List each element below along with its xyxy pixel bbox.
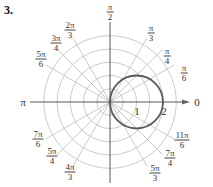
angle-label-7pi-4: 7π4 — [164, 149, 175, 168]
angle-label-5pi-3: 5π3 — [149, 164, 160, 183]
radial-label-2: 2 — [161, 107, 167, 116]
angle-label-2pi-3: 2π3 — [64, 21, 75, 40]
angle-label-4pi-3: 4π3 — [64, 163, 75, 182]
polar-plot — [0, 0, 213, 187]
angle-label-5pi-4: 5π4 — [46, 147, 57, 166]
angle-label-pi-6: π6 — [181, 64, 188, 83]
angle-label-pi: π — [20, 98, 26, 107]
angle-label-pi-3: π3 — [148, 24, 155, 43]
angle-label-5pi-6: 5π6 — [35, 50, 46, 69]
axis-arrow-icon — [182, 100, 190, 105]
angle-label-pi-4: π4 — [164, 47, 171, 66]
angle-label-7pi-6: 7π6 — [32, 130, 43, 149]
radial-label-1: 1 — [134, 107, 140, 116]
angle-label-3pi-4: 3π4 — [50, 34, 61, 53]
angle-label-0: 0 — [194, 98, 200, 107]
angle-label-11pi-6: 11π6 — [174, 131, 189, 150]
angle-label-pi-2: π2 — [107, 3, 114, 22]
